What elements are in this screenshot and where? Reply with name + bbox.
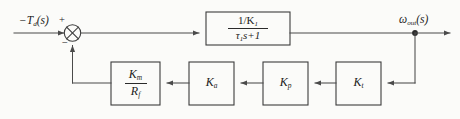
summing-junction-plus: + — [59, 15, 65, 26]
forward-block-numerator: 1/K1 — [236, 15, 260, 27]
forward-block-fraction: 1/K1 τ1s+1 — [228, 15, 268, 43]
block-km-rf-fraction: Km Rf — [125, 68, 147, 99]
output-label-tail: (s) — [416, 13, 428, 25]
output-label-subscript: out — [407, 19, 416, 27]
forward-block-label: 1/K1 τ1s+1 — [206, 12, 290, 45]
block-ka-gain: Ka — [206, 76, 218, 90]
block-ka-label: Ka — [189, 62, 234, 105]
block-kt-gain: Kt — [353, 76, 363, 90]
output-label: ωout(s) — [399, 14, 428, 27]
input-label-main: −T — [19, 14, 33, 26]
block-kp-gain: Kp — [280, 76, 292, 90]
block-km-rf-label: Km Rf — [111, 62, 160, 105]
block-kp-label: Kp — [263, 62, 308, 105]
block-km-rf-numerator: Km — [127, 68, 144, 82]
input-label-tail: (s) — [37, 14, 49, 26]
input-label: −Td(s) — [19, 15, 49, 28]
block-diagram-figure: −Td(s) + − 1/K1 τ1s+1 ωout(s) Km Rf — [0, 0, 460, 119]
forward-block-denominator: τ1s+1 — [234, 30, 263, 42]
block-km-rf-denominator: Rf — [129, 85, 142, 99]
output-label-main: ω — [399, 13, 407, 25]
summing-junction-minus: − — [62, 38, 68, 49]
block-kt-label: Kt — [336, 62, 381, 105]
